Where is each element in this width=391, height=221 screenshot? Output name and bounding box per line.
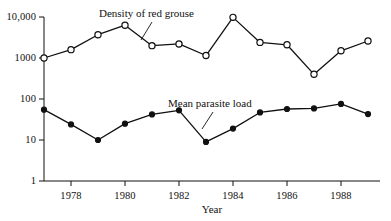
data-point <box>123 121 128 126</box>
data-point <box>338 48 344 54</box>
parasite-leader-line <box>202 112 213 129</box>
data-point <box>231 126 236 131</box>
data-point <box>68 47 74 53</box>
x-axis-tick-label: 1988 <box>330 191 351 202</box>
chart-plot-area <box>0 0 391 221</box>
x-axis-ticks <box>71 181 341 186</box>
data-point <box>366 112 371 117</box>
chart-figure: Density of red grouse Mean parasite load… <box>0 0 391 221</box>
data-point <box>42 107 47 112</box>
data-point <box>230 14 236 20</box>
data-point <box>257 39 263 45</box>
data-point <box>204 139 209 144</box>
data-point <box>339 101 344 106</box>
x-axis-tick-label: 1980 <box>114 191 135 202</box>
data-point <box>203 52 209 58</box>
data-point <box>311 71 317 77</box>
series-line-red-grouse <box>44 17 368 74</box>
data-point <box>69 122 74 127</box>
data-point <box>95 32 101 38</box>
data-point <box>285 107 290 112</box>
series-markers <box>41 14 371 144</box>
x-axis-tick-label: 1986 <box>276 191 297 202</box>
series-label-red-grouse: Density of red grouse <box>99 8 194 19</box>
data-point <box>150 112 155 117</box>
y-axis-tick-label: 10 <box>0 135 36 146</box>
x-axis-tick-label: 1982 <box>168 191 189 202</box>
data-point <box>149 43 155 49</box>
y-axis-tick-label: 1 <box>0 176 36 187</box>
y-axis-tick-label: 10,000 <box>0 12 36 23</box>
y-axis-tick-label: 1000 <box>0 53 36 64</box>
data-point <box>365 38 371 44</box>
y-axis-tick-label: 100 <box>0 94 36 105</box>
data-point <box>176 41 182 47</box>
data-point <box>122 22 128 28</box>
x-axis-title: Year <box>202 204 222 215</box>
data-point <box>258 110 263 115</box>
y-axis-ticks <box>39 17 44 181</box>
data-point <box>41 55 47 61</box>
data-point <box>96 138 101 143</box>
x-axis-tick-label: 1978 <box>60 191 81 202</box>
x-axis-tick-label: 1984 <box>222 191 243 202</box>
grouse-leader-line <box>141 22 152 40</box>
data-point <box>284 42 290 48</box>
data-point <box>312 106 317 111</box>
series-label-parasite-load: Mean parasite load <box>168 98 252 109</box>
